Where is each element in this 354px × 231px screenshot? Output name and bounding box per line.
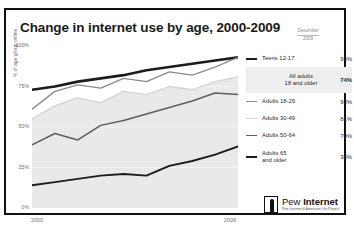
legend-row: Adults 50-6470% [246, 127, 352, 144]
legend-swatch-icon [246, 156, 257, 158]
y-tick-25: 25% [7, 165, 29, 170]
x-tick-2009: 2009 [224, 217, 236, 223]
y-tick-50: 50% [7, 124, 29, 129]
legend-value: 81% [332, 116, 352, 122]
legend-date-year: 2009 [303, 36, 313, 41]
legend-label: Adults 30-49 [262, 115, 332, 122]
legend-label: Teens 12-17 [262, 55, 332, 62]
legend-label: Adults 50-64 [262, 132, 332, 139]
logo-word-internet: Internet [303, 196, 338, 207]
legend-swatch-icon [246, 135, 257, 136]
legend-value: 70% [332, 133, 352, 139]
legend-swatch-icon [246, 118, 257, 119]
legend-value: 74% [332, 77, 352, 83]
legend-swatch-icon [246, 101, 257, 102]
legend-row: Teens 12-1793% [246, 50, 352, 67]
legend-date-header: December 2009 [282, 28, 334, 42]
y-tick-0: 0% [7, 205, 29, 210]
legend-value: 38% [332, 154, 352, 160]
pew-logo-text: Pew Internet Pew Internet & American Lif… [282, 197, 339, 211]
logo-wordmark: Pew Internet [282, 197, 339, 207]
line-chart-svg [32, 46, 238, 208]
y-tick-75: 75% [7, 84, 29, 89]
plot-area: % of age group online 0%25%50%75%100% 20… [32, 46, 238, 208]
legend-date-month: December [297, 28, 318, 36]
y-tick-100: 100% [7, 43, 29, 48]
legend-label: All adults18 and older [262, 73, 332, 88]
legend-row: Adults 18-2993% [246, 93, 352, 110]
legend-row: Adults 30-4981% [246, 110, 352, 127]
chart-legend: Teens 12-1793%All adults18 and older74%A… [246, 50, 352, 170]
x-tick-2000: 2000 [31, 217, 43, 223]
pew-logo-icon [264, 196, 278, 213]
page-title: Change in internet use by age, 2000-2009 [20, 20, 280, 35]
logo-tagline: Pew Internet & American Life Project [282, 208, 339, 211]
legend-value: 93% [332, 56, 352, 62]
legend-label: Adults 18-29 [262, 98, 332, 105]
chart-frame: Change in internet use by age, 2000-2009… [4, 8, 346, 215]
legend-row: Adults 65and older38% [246, 144, 352, 170]
legend-swatch-icon [246, 58, 257, 60]
logo-word-pew: Pew [282, 196, 303, 207]
legend-row: All adults18 and older74% [246, 67, 352, 93]
legend-value: 93% [332, 99, 352, 105]
pew-internet-logo: Pew Internet Pew Internet & American Lif… [264, 196, 339, 213]
legend-label: Adults 65and older [262, 150, 332, 165]
